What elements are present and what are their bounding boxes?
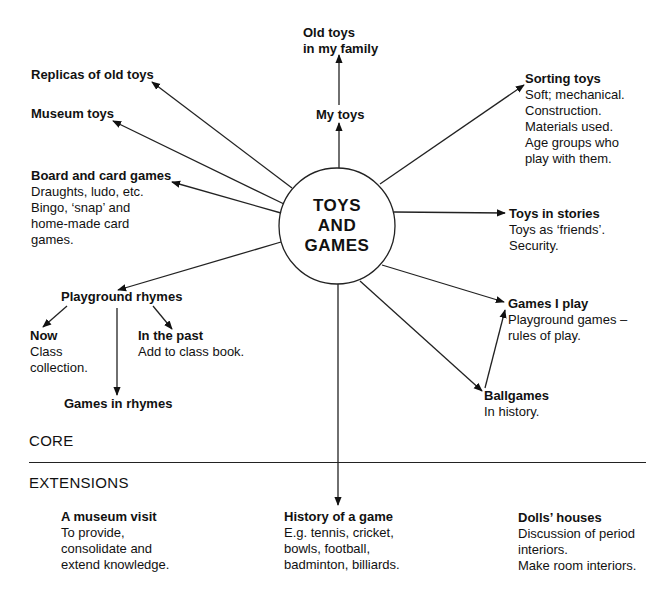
node-title: Ballgames	[484, 388, 549, 404]
node-desc: consolidate and	[61, 541, 169, 557]
node-desc: To provide,	[61, 525, 169, 541]
node-desc: Make room interiors.	[518, 558, 636, 574]
node-desc: Soft; mechanical.	[525, 87, 625, 103]
node-desc: Playground games –	[508, 312, 627, 328]
node-title: A museum visit	[61, 509, 169, 525]
node-desc: collection.	[30, 360, 88, 376]
section-core-label: CORE	[29, 432, 74, 449]
arrow-replicas	[152, 82, 292, 188]
center-topic: TOYS AND GAMES	[279, 196, 395, 256]
node-desc: Add to class book.	[138, 344, 244, 360]
node-board-card-games: Board and card games Draughts, ludo, etc…	[31, 168, 171, 248]
extension-museum-visit: A museum visit To provide, consolidate a…	[61, 509, 169, 573]
arrow-ballgames	[360, 281, 482, 391]
node-now: Now Class collection.	[30, 328, 88, 376]
node-title: Toys in stories	[509, 206, 605, 222]
node-desc: play with them.	[525, 151, 625, 167]
node-desc: badminton, billiards.	[284, 557, 400, 573]
arrow-stories	[394, 212, 505, 213]
node-old-toys-family: Old toys in my family	[303, 25, 378, 57]
arrow-in-the-past	[153, 306, 172, 329]
arrow-ballgames-to-games-i-play	[485, 310, 505, 388]
node-desc: In history.	[484, 404, 549, 420]
center-line-3: GAMES	[279, 236, 395, 256]
arrow-sorting	[380, 85, 524, 184]
node-title: Museum toys	[31, 106, 114, 122]
node-desc: E.g. tennis, cricket,	[284, 525, 400, 541]
node-title: Games in rhymes	[64, 396, 172, 412]
node-desc: Discussion of period	[518, 526, 636, 542]
node-in-the-past: In the past Add to class book.	[138, 328, 244, 360]
node-desc: games.	[31, 232, 171, 248]
node-title: History of a game	[284, 509, 400, 525]
node-museum-toys: Museum toys	[31, 106, 114, 122]
node-desc: Toys as ‘friends’.	[509, 222, 605, 238]
node-title: Playground rhymes	[61, 289, 182, 305]
node-title: Replicas of old toys	[31, 67, 154, 83]
arrow-board-card	[172, 182, 281, 213]
node-desc: interiors.	[518, 542, 636, 558]
node-desc: Materials used.	[525, 119, 625, 135]
center-line-1: TOYS	[279, 196, 395, 216]
node-my-toys: My toys	[316, 107, 364, 123]
node-title: in my family	[303, 41, 378, 57]
node-desc: Class	[30, 344, 88, 360]
node-desc: Construction.	[525, 103, 625, 119]
node-title: Sorting toys	[525, 71, 625, 87]
extension-dolls-houses: Dolls’ houses Discussion of period inter…	[518, 510, 636, 574]
node-playground-rhymes: Playground rhymes	[61, 289, 182, 305]
arrow-now	[43, 306, 67, 327]
arrow-games-i-play	[382, 265, 504, 302]
node-toys-in-stories: Toys in stories Toys as ‘friends’. Secur…	[509, 206, 605, 254]
node-games-in-rhymes: Games in rhymes	[64, 396, 172, 412]
node-title: Old toys	[303, 25, 378, 41]
node-desc: extend knowledge.	[61, 557, 169, 573]
node-title: Dolls’ houses	[518, 510, 636, 526]
center-line-2: AND	[279, 216, 395, 236]
node-ballgames: Ballgames In history.	[484, 388, 549, 420]
node-title: Now	[30, 328, 88, 344]
node-desc: Age groups who	[525, 135, 625, 151]
section-extensions-label: EXTENSIONS	[29, 474, 129, 491]
node-sorting-toys: Sorting toys Soft; mechanical. Construct…	[525, 71, 625, 167]
node-title: Games I play	[508, 296, 627, 312]
extension-history-of-a-game: History of a game E.g. tennis, cricket, …	[284, 509, 400, 573]
node-desc: bowls, football,	[284, 541, 400, 557]
node-games-i-play: Games I play Playground games – rules of…	[508, 296, 627, 344]
node-title: My toys	[316, 107, 364, 123]
node-replicas: Replicas of old toys	[31, 67, 154, 83]
node-desc: Security.	[509, 238, 605, 254]
core-extensions-divider	[29, 462, 646, 463]
node-title: In the past	[138, 328, 244, 344]
node-desc: Draughts, ludo, etc.	[31, 184, 171, 200]
node-desc: rules of play.	[508, 328, 627, 344]
node-desc: Bingo, ‘snap’ and	[31, 200, 171, 216]
node-desc: home-made card	[31, 216, 171, 232]
arrow-playground	[118, 242, 281, 290]
node-title: Board and card games	[31, 168, 171, 184]
